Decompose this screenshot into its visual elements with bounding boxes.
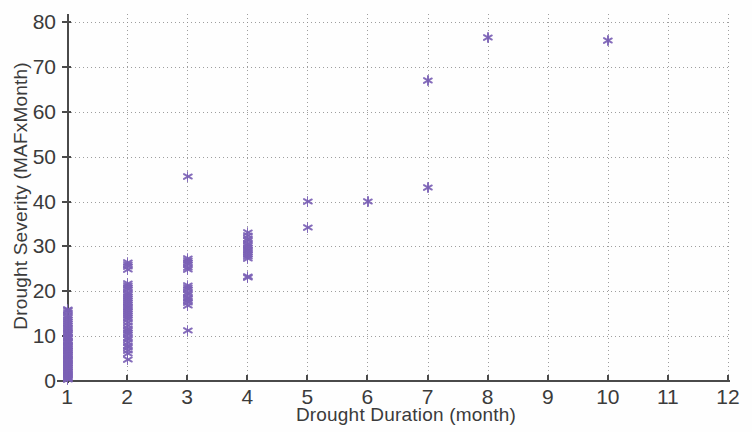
gridline-horizontal [67, 22, 728, 23]
y-axis-tick [62, 111, 71, 113]
x-axis-tick [306, 375, 308, 382]
x-axis-tick [66, 375, 68, 382]
gridline-horizontal [67, 291, 728, 292]
gridline-vertical [307, 14, 308, 381]
gridline-vertical [127, 14, 128, 381]
x-axis-tick [607, 375, 609, 382]
x-axis-tick [186, 375, 188, 382]
gridline-horizontal [67, 157, 728, 158]
y-axis-line [67, 14, 69, 383]
x-axis-tick [487, 375, 489, 382]
x-axis-tick [366, 375, 368, 382]
gridline-vertical [608, 14, 609, 381]
x-axis-title: Drought Duration (month) [0, 404, 752, 426]
y-axis-tick [62, 335, 71, 337]
y-axis-tick [62, 290, 71, 292]
y-axis-title-wrap: Drought Severity (MAFxMonth) [0, 0, 40, 432]
plot-area [67, 22, 728, 381]
y-axis-tick [62, 21, 71, 23]
gridline-horizontal [67, 67, 728, 68]
x-axis-line [57, 380, 730, 382]
y-axis-tick [62, 156, 71, 158]
x-axis-tick [126, 375, 128, 382]
y-axis-tick [62, 201, 71, 203]
x-axis-tick [727, 375, 729, 382]
gridline-vertical [488, 14, 489, 381]
x-axis-tick [427, 375, 429, 382]
x-axis-tick [547, 375, 549, 382]
gridline-vertical [247, 14, 248, 381]
y-axis-tick [62, 245, 71, 247]
gridline-horizontal [67, 202, 728, 203]
gridline-vertical [668, 14, 669, 381]
scatter-plot-figure: 01020304050607080123456789101112 Drought… [0, 0, 752, 432]
gridline-horizontal [67, 112, 728, 113]
gridline-vertical [728, 14, 729, 381]
y-axis-title: Drought Severity (MAFxMonth) [10, 31, 32, 361]
gridline-horizontal [67, 336, 728, 337]
x-axis-tick [246, 375, 248, 382]
gridline-horizontal [67, 246, 728, 247]
gridline-vertical [187, 14, 188, 381]
gridline-vertical [367, 14, 368, 381]
gridline-vertical [428, 14, 429, 381]
y-axis-tick [62, 66, 71, 68]
x-axis-tick [667, 375, 669, 382]
gridline-vertical [548, 14, 549, 381]
